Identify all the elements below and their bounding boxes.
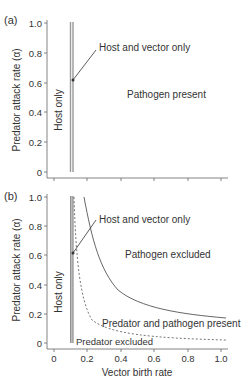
host-only-label: Host only [53, 89, 64, 131]
svg-text:0: 0 [51, 353, 56, 364]
y-ticks: 0 0.2 0.4 0.6 0.8 1.0 [29, 192, 47, 349]
panel-b: (b) 0 0.2 0.4 0.6 0.8 1.0 0 0.2 0.4 [4, 190, 241, 378]
svg-text:0: 0 [37, 167, 42, 178]
svg-text:0.6: 0.6 [29, 250, 42, 261]
x-ticks: 0 0.2 0.4 0.6 0.8 1.0 [51, 349, 227, 364]
arrow-head-icon [72, 252, 75, 255]
svg-text:0.4: 0.4 [29, 107, 42, 118]
svg-text:0.8: 0.8 [181, 353, 194, 364]
svg-text:0.2: 0.2 [29, 137, 42, 148]
svg-text:0.4: 0.4 [29, 280, 42, 291]
svg-text:0: 0 [37, 338, 42, 349]
panel-a-label: (a) [4, 14, 17, 26]
x-axis-label: Vector birth rate [102, 367, 173, 378]
host-only-label: Host only [53, 271, 64, 313]
svg-text:1.0: 1.0 [29, 192, 42, 203]
y-axis-label: Predator attack rate (α) [11, 218, 22, 321]
figure: (a) 0 0.2 0.4 0.6 0.8 1.0 Predator a [0, 0, 244, 385]
svg-text:0.2: 0.2 [29, 309, 42, 320]
svg-text:1.0: 1.0 [29, 18, 42, 29]
panel-a: (a) 0 0.2 0.4 0.6 0.8 1.0 Predator a [4, 14, 228, 181]
host-vector-label: Host and vector only [99, 214, 190, 225]
svg-text:0.4: 0.4 [114, 353, 127, 364]
svg-text:0.6: 0.6 [29, 78, 42, 89]
predator-excluded-label: Predator excluded [76, 336, 153, 347]
host-vector-label: Host and vector only [99, 42, 190, 53]
svg-text:1.0: 1.0 [214, 353, 227, 364]
pathogen-present-label: Pathogen present [127, 89, 206, 100]
pathogen-excluded-label: Pathogen excluded [125, 249, 211, 260]
pred-path-present-label: Predator and pathogen present [102, 318, 241, 329]
svg-text:0.8: 0.8 [29, 48, 42, 59]
arrow [73, 50, 96, 80]
panel-b-label: (b) [4, 190, 17, 202]
svg-text:0.6: 0.6 [147, 353, 160, 364]
svg-text:0.2: 0.2 [80, 353, 93, 364]
arrow-head-icon [72, 79, 75, 82]
y-ticks: 0 0.2 0.4 0.6 0.8 1.0 [29, 18, 47, 178]
svg-text:0.8: 0.8 [29, 221, 42, 232]
x-ticks [54, 178, 221, 181]
y-axis-label: Predator attack rate (α) [11, 48, 22, 151]
